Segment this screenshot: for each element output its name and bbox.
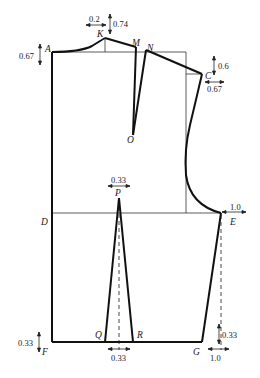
label-e: E [229,217,236,227]
side-seam-e-g [202,213,221,342]
guide-lines [52,38,221,213]
dim-c-horizontal: 0.67 [207,84,222,94]
waist-dart-p-r [119,198,133,342]
armhole-curve [186,74,222,213]
dimension-markers [38,14,247,352]
label-g: G [193,347,200,357]
dim-k-vertical: 0.74 [113,19,129,29]
dim-k-horizontal: 0.2 [89,14,100,24]
dim-c-vertical: 0.6 [218,61,229,71]
dim-a-vertical: 0.67 [19,51,34,61]
dim-f-vertical: 0.33 [18,338,33,348]
label-c: C [205,71,212,81]
pattern-diagram: A K M N C O D E P F Q R G 0.2 0.74 0.67 … [0,0,260,378]
label-d: D [40,217,48,227]
label-p: P [114,188,121,198]
dim-e-horizontal: 1.0 [230,202,241,212]
label-k: K [96,29,104,39]
label-q: Q [95,330,102,340]
label-m: M [131,38,141,48]
label-a: A [44,44,51,54]
pattern-outline [52,38,221,342]
neckline-curve [52,38,105,52]
label-o: O [127,135,134,145]
dim-g-vertical: 0.33 [222,330,237,340]
label-f: F [41,347,48,357]
dashed-lines [119,200,221,350]
dim-g-horizontal: 1.0 [210,353,221,363]
dim-qr-horizontal: 0.33 [111,353,126,363]
label-r: R [136,330,143,340]
label-n: N [146,43,154,53]
shoulder-line-n-c [146,50,202,74]
dim-p-horizontal: 0.33 [111,175,126,185]
waist-dart-p-q [105,198,119,342]
